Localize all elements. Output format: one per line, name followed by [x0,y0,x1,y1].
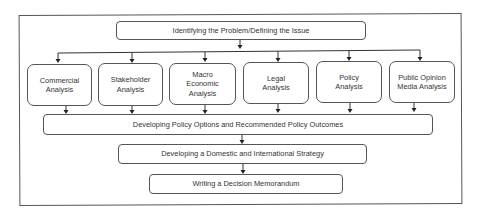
stakeholder-analysis-step: Stakeholder Analysis [98,63,163,106]
decision-memorandum-step: Writing a Decision Memorandum [149,174,343,194]
policy-options-label: Developing Policy Options and Recommende… [133,120,343,130]
commercial-analysis-label: Commercial Analysis [30,76,89,95]
strategy-step: Developing a Domestic and International … [118,144,367,164]
public-opinion-media-analysis-label: Public Opinion Media Analysis [396,73,448,92]
stakeholder-analysis-label: Stakeholder Analysis [101,75,160,94]
policy-analysis-step: Policy Analysis [316,61,382,103]
macro-economic-analysis-step: Macro Economic Analysis [169,63,236,105]
legal-analysis-step: Legal Analysis [243,62,309,104]
identify-problem-step: Identifying the Problem/Defining the Iss… [116,21,366,40]
decision-memorandum-label: Writing a Decision Memorandum [192,179,299,189]
legal-analysis-label: Legal Analysis [258,74,294,93]
policy-analysis-label: Policy Analysis [331,73,367,92]
strategy-label: Developing a Domestic and International … [161,149,324,159]
identify-problem-label: Identifying the Problem/Defining the Iss… [173,26,310,36]
macro-economic-analysis-label: Macro Economic Analysis [183,70,223,99]
policy-options-step: Developing Policy Options and Recommende… [43,114,433,135]
public-opinion-media-analysis-step: Public Opinion Media Analysis [389,61,455,103]
commercial-analysis-step: Commercial Analysis [27,64,92,106]
